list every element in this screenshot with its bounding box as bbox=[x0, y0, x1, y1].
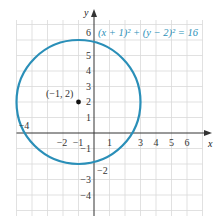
x-axis-arrow-icon bbox=[204, 130, 212, 136]
y-tick-p4: 4 bbox=[86, 65, 91, 76]
y-tick-m3: −3 bbox=[80, 174, 91, 185]
y-tick-p5: 5 bbox=[86, 50, 91, 61]
x-axis-label: x bbox=[207, 138, 213, 149]
x-tick-p3: 3 bbox=[138, 137, 143, 148]
y-tick-p1: 1 bbox=[86, 112, 91, 123]
circle-graph: y x (x + 1)² + (y − 2)² = 16 (−1, 2) −4 … bbox=[0, 0, 223, 222]
x-tick-m2: −2 bbox=[57, 137, 68, 148]
center-point bbox=[76, 100, 81, 105]
y-tick-m4: −4 bbox=[80, 190, 91, 201]
y-tick-p3: 3 bbox=[86, 81, 91, 92]
y-axis-label: y bbox=[83, 7, 89, 18]
y-tick-m2: −2 bbox=[97, 165, 108, 176]
equation-label: (x + 1)² + (y − 2)² = 16 bbox=[98, 27, 199, 39]
y-tick-p6: 6 bbox=[86, 27, 91, 38]
x-tick-p4: 4 bbox=[154, 137, 159, 148]
x-tick-m4: −4 bbox=[19, 120, 30, 131]
x-tick-p6: 6 bbox=[185, 137, 190, 148]
y-tick-p2: 2 bbox=[86, 96, 91, 107]
x-tick-p1: 1 bbox=[107, 137, 112, 148]
point-label: (−1, 2) bbox=[46, 88, 73, 100]
x-tick-p5: 5 bbox=[169, 137, 174, 148]
y-axis-arrow-icon bbox=[91, 9, 97, 17]
y-tick-m1: −1 bbox=[80, 143, 91, 154]
